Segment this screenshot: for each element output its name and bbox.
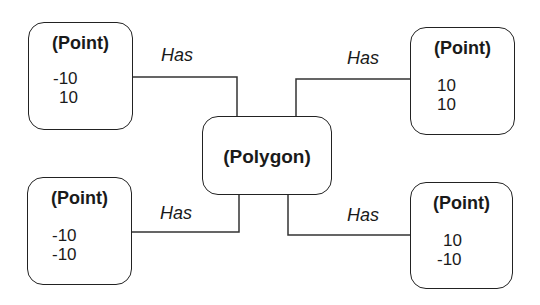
point-y-value: -10	[52, 245, 77, 264]
point-node-bottom-left: (Point) -10 -10	[27, 177, 132, 285]
relation-label-bottom-left: Has	[160, 203, 192, 224]
point-node-top-right: (Point) 10 10	[410, 27, 515, 135]
point-x-value: -10	[52, 226, 77, 245]
point-node-title: (Point)	[411, 38, 514, 59]
relation-label-top-right: Has	[347, 48, 379, 69]
relation-label-bottom-right: Has	[347, 205, 379, 226]
point-x-value: -10	[53, 69, 78, 88]
point-y-value: 10	[59, 88, 78, 107]
relation-label-top-left: Has	[161, 45, 193, 66]
connector-top-right	[296, 79, 410, 116]
point-x-value: 10	[443, 231, 462, 250]
point-node-top-left: (Point) -10 10	[28, 22, 133, 130]
connector-top-left	[133, 77, 237, 116]
point-node-bottom-right: (Point) 10 -10	[410, 182, 513, 289]
point-node-title: (Point)	[28, 188, 131, 209]
point-node-title: (Point)	[29, 33, 132, 54]
polygon-node-title: (Polygon)	[203, 146, 331, 168]
point-y-value: 10	[437, 95, 456, 114]
polygon-node: (Polygon)	[202, 116, 332, 195]
point-node-title: (Point)	[411, 193, 512, 214]
point-y-value: -10	[437, 250, 462, 269]
point-x-value: 10	[437, 76, 456, 95]
